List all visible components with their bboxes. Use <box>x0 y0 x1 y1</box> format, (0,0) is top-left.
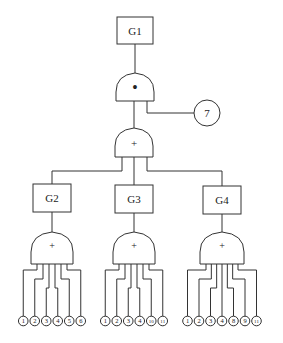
gate-label: G4 <box>215 194 229 206</box>
event-label: 11 <box>160 319 165 324</box>
basic-event-10: 10 <box>146 316 156 326</box>
event-label: 10 <box>149 319 155 324</box>
event-label: 3 <box>209 317 212 324</box>
event-label: 1 <box>22 317 25 324</box>
event-connector <box>233 264 245 316</box>
top-event-label: G1 <box>128 25 141 37</box>
basic-event-7: 7 <box>194 100 220 126</box>
top-event-g1: G1 <box>117 17 153 44</box>
basic-event-1: 1 <box>183 316 193 326</box>
event-connector <box>46 264 49 316</box>
event-connector <box>55 264 58 316</box>
event-label: 11 <box>254 319 259 324</box>
basic-event-2: 2 <box>112 316 122 326</box>
basic-event-4: 4 <box>217 316 227 326</box>
event-label: 2 <box>33 317 36 324</box>
event-connector <box>35 264 43 316</box>
event-label: 1 <box>104 317 107 324</box>
basic-event-5: 5 <box>64 316 74 326</box>
and-gate: • <box>116 73 154 101</box>
or-gate-symbol: + <box>131 240 137 251</box>
basic-event-9: 9 <box>240 316 250 326</box>
gate-label: G2 <box>45 192 58 204</box>
basic-event-4: 4 <box>135 316 145 326</box>
or-gate-symbol: + <box>219 240 225 251</box>
basic-event-6: 6 <box>76 316 86 326</box>
event-connector <box>117 264 125 316</box>
event-connector <box>61 264 69 316</box>
basic-event-3: 3 <box>41 316 51 326</box>
event-connector <box>199 264 211 316</box>
event-connector <box>137 264 140 316</box>
event-connector <box>143 264 151 316</box>
basic-event-3: 3 <box>206 316 216 326</box>
event-connector <box>188 264 207 316</box>
basic-event-11: 11 <box>158 316 168 326</box>
basic-event-4: 4 <box>53 316 63 326</box>
basic-event-2: 2 <box>194 316 204 326</box>
main-or-gate: + <box>115 128 153 157</box>
event-connector <box>128 264 131 316</box>
or-gate-symbol: + <box>49 240 55 251</box>
basic-event-1: 1 <box>100 316 110 326</box>
event-label: 3 <box>127 317 130 324</box>
basic-event-2: 2 <box>30 316 40 326</box>
subsystem-g4: G4+12348911 <box>183 186 262 326</box>
basic-event-11: 11 <box>252 316 262 326</box>
event-label: 2 <box>115 317 118 324</box>
event-label: 2 <box>197 317 200 324</box>
event-label: 3 <box>45 317 48 324</box>
event-7-label: 7 <box>204 107 210 119</box>
main-or-symbol: + <box>131 137 137 149</box>
and-gate-symbol: • <box>133 80 138 95</box>
subsystem-g2: G2+123456 <box>18 184 85 326</box>
event-label: 1 <box>186 317 189 324</box>
fault-tree-diagram: G1 • 7 + G2+123456G3+12341011G4+12348911 <box>0 0 283 343</box>
basic-event-1: 1 <box>18 316 28 326</box>
event-label: 8 <box>232 317 235 324</box>
basic-event-3: 3 <box>123 316 133 326</box>
event-label: 5 <box>68 317 71 324</box>
event-label: 9 <box>243 317 246 324</box>
subsystem-g3: G3+12341011 <box>100 185 167 326</box>
gate-label: G3 <box>127 193 141 205</box>
event-connector <box>238 264 257 316</box>
basic-event-8: 8 <box>229 316 239 326</box>
